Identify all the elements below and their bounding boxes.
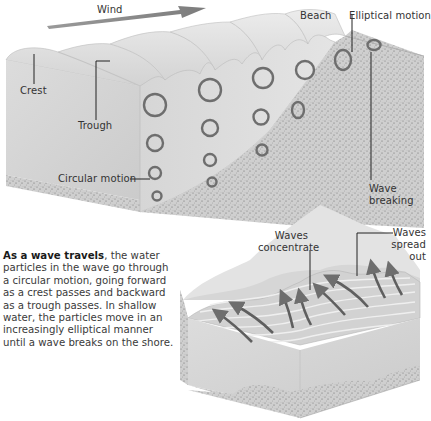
label-waves-concentrate-line1: Waves [258, 230, 308, 242]
label-crest: Crest [20, 85, 47, 97]
label-waves-concentrate: Waves concentrate [258, 230, 308, 254]
label-waves-spread-line2: spread [386, 239, 426, 251]
caption: As a wave travels, the water particles i… [3, 250, 175, 349]
label-circular-motion: Circular motion [58, 173, 136, 185]
label-wave-breaking-line1: Wave [369, 183, 414, 195]
caption-lead: As a wave travels [3, 250, 104, 261]
label-waves-concentrate-line2: concentrate [258, 242, 308, 254]
label-waves-spread-line3: out [386, 251, 426, 263]
label-wind: Wind [97, 4, 123, 16]
caption-body: , the water particles in the wave go thr… [3, 250, 173, 348]
label-waves-spread-out: Waves spread out [386, 227, 426, 263]
label-beach: Beach [300, 10, 331, 22]
label-wave-breaking: Wave breaking [369, 183, 414, 207]
label-elliptical-motion: Elliptical motion [349, 10, 431, 22]
wind-arrow-icon [47, 6, 206, 29]
label-wave-breaking-line2: breaking [369, 195, 414, 207]
label-waves-spread-line1: Waves [386, 227, 426, 239]
top-wave-block [6, 6, 424, 228]
label-trough: Trough [78, 120, 112, 132]
